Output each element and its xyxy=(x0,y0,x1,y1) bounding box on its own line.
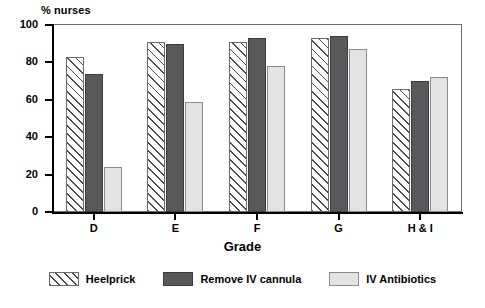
legend-item[interactable]: Remove IV cannula xyxy=(163,272,301,286)
legend-label: Remove IV cannula xyxy=(200,273,301,285)
y-tick-mark xyxy=(45,24,53,26)
bar-group xyxy=(66,25,122,212)
y-tick-label: 20 xyxy=(8,169,38,180)
bar xyxy=(267,66,285,212)
bar xyxy=(66,57,84,212)
x-tick-mark xyxy=(256,214,258,220)
bar-chart: % nurses 020406080100 DEFGH & I Grade He… xyxy=(0,0,485,308)
y-tick-mark xyxy=(45,61,53,63)
y-tick-mark xyxy=(45,136,53,138)
legend-swatch-icon xyxy=(329,272,359,286)
chart-legend: HeelprickRemove IV cannulaIV Antibiotics xyxy=(0,272,485,286)
x-tick-mark xyxy=(338,214,340,220)
y-tick-label: 60 xyxy=(8,94,38,105)
bars-layer xyxy=(53,25,461,212)
x-tick-mark xyxy=(174,214,176,220)
bar xyxy=(185,102,203,212)
legend-swatch-icon xyxy=(163,272,193,286)
x-tick-label: D xyxy=(90,222,98,234)
y-tick-label: 80 xyxy=(8,56,38,67)
bar xyxy=(166,44,184,212)
x-tick-label: H & I xyxy=(408,222,433,234)
y-axis-label: % nurses xyxy=(41,4,91,16)
x-tick-label: G xyxy=(334,222,343,234)
bar xyxy=(229,42,247,212)
bar-group xyxy=(147,25,203,212)
bar xyxy=(411,81,429,212)
legend-swatch-icon xyxy=(49,272,79,286)
legend-item[interactable]: IV Antibiotics xyxy=(329,272,436,286)
bar xyxy=(330,36,348,212)
bar xyxy=(349,49,367,212)
bar-group xyxy=(311,25,367,212)
legend-label: Heelprick xyxy=(86,273,136,285)
bar xyxy=(248,38,266,212)
bar xyxy=(311,38,329,212)
bar xyxy=(104,167,122,212)
x-tick-mark xyxy=(93,214,95,220)
x-axis-title: Grade xyxy=(0,239,485,254)
x-tick-mark xyxy=(419,214,421,220)
bar-group xyxy=(229,25,285,212)
y-tick-label: 0 xyxy=(8,206,38,217)
bar xyxy=(147,42,165,212)
y-tick-mark xyxy=(45,174,53,176)
bar-group xyxy=(392,25,448,212)
y-tick-label: 100 xyxy=(8,19,38,30)
bar xyxy=(430,77,448,212)
y-tick-label: 40 xyxy=(8,131,38,142)
y-tick-mark xyxy=(45,99,53,101)
bar xyxy=(85,74,103,212)
x-tick-label: E xyxy=(172,222,179,234)
y-tick-mark xyxy=(45,211,53,213)
legend-item[interactable]: Heelprick xyxy=(49,272,136,286)
legend-label: IV Antibiotics xyxy=(366,273,436,285)
x-tick-label: F xyxy=(254,222,261,234)
bar xyxy=(392,89,410,212)
